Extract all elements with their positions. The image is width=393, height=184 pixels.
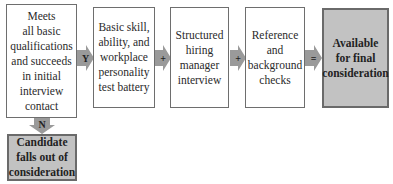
connector-label-plus: + xyxy=(155,45,171,71)
step-text-line: personality xyxy=(98,65,149,80)
step-text-line: and xyxy=(248,43,302,58)
step-text-line: test battery xyxy=(98,80,149,95)
step-text-line: manager xyxy=(176,58,224,73)
step-text-line: in initial xyxy=(10,69,73,84)
step-text-line: Basic skill, xyxy=(98,20,149,35)
step-text-line: ability, and xyxy=(98,35,149,50)
connector-label-yes: Y xyxy=(77,45,94,71)
step-test-battery: Basic skill, ability, and workplace pers… xyxy=(93,7,155,108)
step-text-line: consideration xyxy=(322,66,388,81)
reject-candidate-box: Candidate falls out of consideration xyxy=(7,134,77,181)
reject-text-line: falls out of xyxy=(9,150,75,165)
step-text-line: all basic xyxy=(10,24,73,39)
step-structured-interview: Structured hiring manager interview xyxy=(170,7,229,108)
step-text-line: interview xyxy=(176,73,224,88)
step-text-line: for final xyxy=(322,51,388,66)
step-text-line: hiring xyxy=(176,43,224,58)
connector-label-no: N xyxy=(29,118,55,135)
step-text-line: interview xyxy=(10,84,73,99)
step-text-line: Reference xyxy=(248,28,302,43)
step-text-line: Available xyxy=(322,36,388,51)
connector-label-equals: = xyxy=(305,45,322,71)
step-text-line: and succeeds xyxy=(10,54,73,69)
arrow-right-plus-icon: + xyxy=(155,45,171,71)
arrow-right-yes-icon: Y xyxy=(77,45,94,71)
step-available-final: Available for final consideration xyxy=(322,8,389,108)
step-text-line: background xyxy=(248,58,302,73)
step-text-line: qualifications xyxy=(10,39,73,54)
arrow-right-equals-icon: = xyxy=(305,45,322,71)
step-initial-qualifications: Meets all basic qualifications and succe… xyxy=(6,4,77,118)
arrow-right-plus-icon: + xyxy=(230,45,246,71)
connector-label-plus: + xyxy=(230,45,246,71)
step-text-line: Meets xyxy=(10,9,73,24)
arrow-down-no-icon: N xyxy=(29,118,55,134)
step-reference-checks: Reference and background checks xyxy=(245,7,305,108)
step-text-line: Structured xyxy=(176,28,224,43)
step-text-line: workplace xyxy=(98,50,149,65)
step-text-line: checks xyxy=(248,73,302,88)
reject-text-line: consideration xyxy=(9,165,75,180)
reject-text-line: Candidate xyxy=(9,135,75,150)
step-text-line: contact xyxy=(10,99,73,114)
